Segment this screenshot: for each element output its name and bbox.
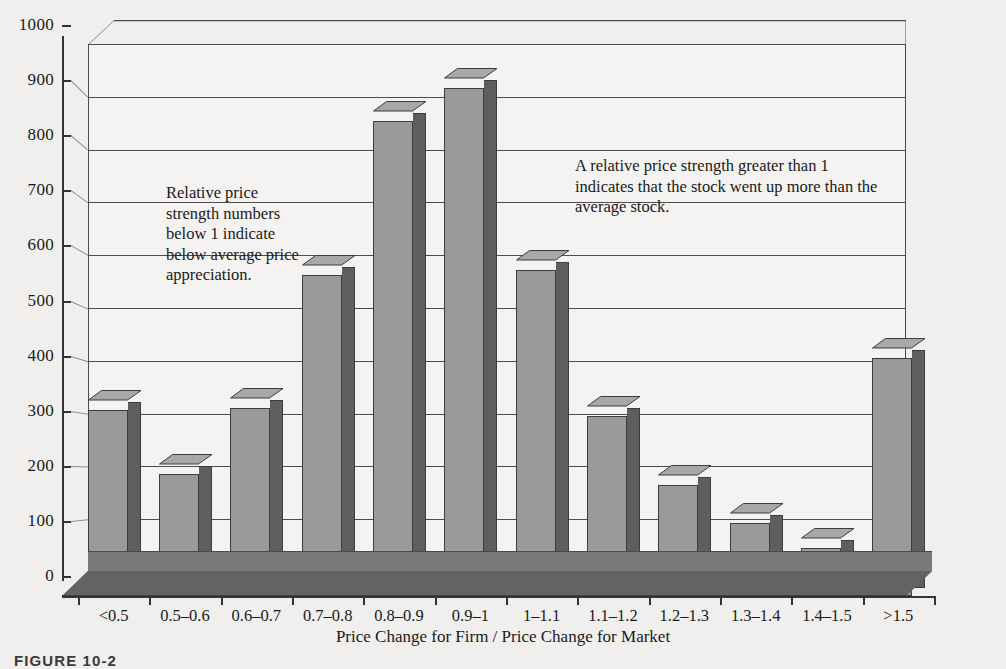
bar-side-face xyxy=(698,477,711,588)
x-axis-tick xyxy=(791,596,793,605)
bar-front-face xyxy=(159,474,199,596)
x-axis-label: 1.4–1.5 xyxy=(791,606,862,625)
bar-side-face xyxy=(413,113,426,588)
y-axis-label: 100 xyxy=(28,512,54,529)
y-axis-label: 1000 xyxy=(19,16,54,33)
y-axis-tick xyxy=(62,576,71,578)
bar-top-face-shape xyxy=(872,338,926,349)
y-axis-label: 600 xyxy=(28,236,54,253)
bar-top-face-shape xyxy=(658,465,712,476)
bar-side-face xyxy=(556,262,569,588)
figure-container: 10009008007006005004003002001000 <0.50.5… xyxy=(0,0,1006,669)
bar-side-face xyxy=(841,540,854,588)
x-axis-tick xyxy=(720,596,722,605)
y-axis-label: 800 xyxy=(28,126,54,143)
y-axis-leader-line xyxy=(71,245,88,256)
bar-column[interactable] xyxy=(872,348,912,596)
x-axis-line xyxy=(62,596,934,598)
x-axis-label: >1.5 xyxy=(863,606,934,625)
bar-front-face xyxy=(587,416,627,596)
x-axis-label: 1.3–1.4 xyxy=(720,606,791,625)
y-axis-label: 400 xyxy=(28,347,54,364)
bar-side-face xyxy=(627,408,640,588)
bar-column[interactable] xyxy=(302,265,342,596)
x-axis-tick xyxy=(649,596,651,605)
y-axis-leader-line xyxy=(70,80,88,97)
x-axis-label: 1–1.1 xyxy=(506,606,577,625)
y-axis-tick xyxy=(62,25,71,27)
bar-column[interactable] xyxy=(159,464,199,596)
bar-column[interactable] xyxy=(587,406,627,596)
bar-front-face xyxy=(516,270,556,596)
y-axis-tick xyxy=(62,190,71,192)
bar-side-face xyxy=(912,350,925,588)
annotation-right-note: A relative price strength greater than 1… xyxy=(575,156,877,218)
bar-column[interactable] xyxy=(516,260,556,596)
bar-column[interactable] xyxy=(444,78,484,596)
y-axis-label: 900 xyxy=(28,71,54,88)
x-axis-label: <0.5 xyxy=(78,606,149,625)
figure-caption: FIGURE 10-2 xyxy=(14,652,117,669)
bar-top-face-shape xyxy=(230,388,284,399)
annotation-left-note: Relative price strength numbers below 1 … xyxy=(166,183,299,286)
bar-column[interactable] xyxy=(658,475,698,596)
bar-column[interactable] xyxy=(373,111,413,596)
x-axis-label: 0.9–1 xyxy=(435,606,506,625)
x-axis-tick xyxy=(863,596,865,605)
bar-front-face xyxy=(658,485,698,596)
y-axis-tick xyxy=(62,135,71,137)
x-axis-label: 0.5–0.6 xyxy=(149,606,220,625)
x-axis-label: 0.7–0.8 xyxy=(292,606,363,625)
bar-front-face xyxy=(88,410,128,596)
bar-front-face xyxy=(872,358,912,596)
bar-side-face xyxy=(342,267,355,588)
bar-front-face xyxy=(444,88,484,596)
x-axis-tick xyxy=(435,596,437,605)
bar-top-face-shape xyxy=(88,390,142,401)
bar-top-face-shape xyxy=(159,454,213,465)
y-axis-leader-line xyxy=(70,190,88,203)
x-axis-label: 0.8–0.9 xyxy=(363,606,434,625)
x-axis-tick xyxy=(292,596,294,605)
y-axis-leader-line xyxy=(71,356,88,362)
y-axis-leader-line xyxy=(71,466,88,468)
y-axis-tick xyxy=(62,245,71,247)
x-axis-label: 0.6–0.7 xyxy=(221,606,292,625)
y-axis-tick xyxy=(62,521,71,523)
plot-ceiling xyxy=(88,20,906,45)
bar-column[interactable] xyxy=(230,398,270,596)
y-axis-line xyxy=(62,36,64,581)
y-axis-leader-line xyxy=(70,135,88,150)
x-axis-tick xyxy=(577,596,579,605)
bar-front-face xyxy=(373,121,413,596)
x-axis-tick xyxy=(506,596,508,605)
bar-front-face xyxy=(801,548,841,596)
x-axis-title: Price Change for Firm / Price Change for… xyxy=(0,627,1006,647)
bar-column[interactable] xyxy=(801,538,841,596)
bar-top-face-shape xyxy=(587,396,641,407)
bar-top-face-shape xyxy=(801,528,855,539)
bar-top-face-shape xyxy=(373,101,427,112)
bar-side-face xyxy=(199,466,212,588)
y-axis-tick xyxy=(62,356,71,358)
gridline xyxy=(89,44,905,45)
y-axis-tick xyxy=(62,301,71,303)
bar-side-face xyxy=(270,400,283,588)
bar-column[interactable] xyxy=(88,400,128,596)
y-axis-label: 200 xyxy=(28,457,54,474)
bar-top-face-shape xyxy=(730,503,784,514)
bar-side-face xyxy=(128,402,141,588)
y-axis-tick xyxy=(62,411,71,413)
y-axis-label: 500 xyxy=(28,292,54,309)
x-axis-label: 1.2–1.3 xyxy=(649,606,720,625)
y-axis-tick xyxy=(62,80,71,82)
y-axis-leader-line xyxy=(71,519,88,522)
y-axis-label: 0 xyxy=(45,567,54,584)
bar-front-face xyxy=(730,523,770,596)
x-axis-tick xyxy=(221,596,223,605)
y-axis-label: 700 xyxy=(28,181,54,198)
bar-front-face xyxy=(302,275,342,596)
x-axis-tick xyxy=(78,596,80,605)
bar-side-face xyxy=(484,80,497,588)
bar-column[interactable] xyxy=(730,513,770,596)
